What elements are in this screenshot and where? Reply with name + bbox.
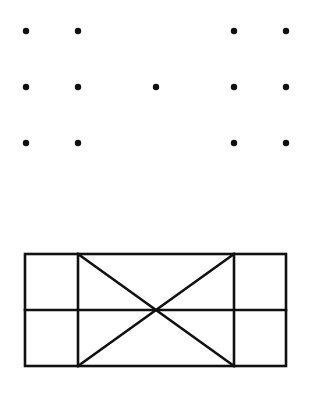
dot xyxy=(283,84,289,90)
dot xyxy=(231,28,237,34)
dot xyxy=(283,28,289,34)
dot xyxy=(23,140,29,146)
dot xyxy=(153,84,159,90)
dot xyxy=(23,28,29,34)
dot xyxy=(231,140,237,146)
dot xyxy=(75,140,81,146)
dot xyxy=(283,140,289,146)
dot xyxy=(75,28,81,34)
puzzle-diagram xyxy=(0,0,311,415)
dot-grid xyxy=(23,28,289,146)
dot xyxy=(231,84,237,90)
rectangle-figure xyxy=(25,254,286,366)
dot xyxy=(23,84,29,90)
dot xyxy=(75,84,81,90)
